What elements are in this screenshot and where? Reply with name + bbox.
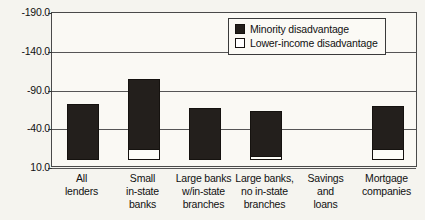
x-axis-category-label: Mortgagecompanies <box>356 172 417 198</box>
legend-item: Lower-income disadvantage <box>235 36 378 50</box>
y-axis-tick-label: -190.0 <box>4 6 50 18</box>
x-axis-category-label: Large banks,no in-statebranches <box>234 172 295 211</box>
y-axis-tick-label: -90.0 <box>4 84 50 96</box>
chart-legend: Minority disadvantageLower-income disadv… <box>228 18 386 55</box>
legend-item-label: Lower-income disadvantage <box>250 37 378 49</box>
filled-square-icon <box>235 24 245 34</box>
x-axis: AlllendersSmallin-statebanksLarge banksw… <box>51 172 417 220</box>
x-axis-category-line: in-state <box>112 185 173 198</box>
bar-group <box>189 13 221 166</box>
bar-minority-disadvantage <box>250 111 282 160</box>
x-axis-category-line: branches <box>173 198 234 211</box>
bar-minority-disadvantage <box>189 108 221 161</box>
legend-item-label: Minority disadvantage <box>250 23 349 35</box>
x-axis-category-line: Large banks <box>173 172 234 185</box>
y-axis-tick-label: -140.0 <box>4 45 50 57</box>
y-axis: -190.0-140.0-90.0-40.010.0 <box>0 0 50 220</box>
x-axis-category-line: no in-state <box>234 185 295 198</box>
x-axis-category-line: Small <box>112 172 173 185</box>
bar-lower-income-disadvantage <box>372 149 404 161</box>
x-axis-category-line: w/in-state <box>173 185 234 198</box>
x-axis-category-label: Savingsandloans <box>295 172 356 211</box>
gridline <box>52 168 416 169</box>
bar-group <box>128 13 160 166</box>
legend-item: Minority disadvantage <box>235 22 378 36</box>
bar-minority-disadvantage <box>67 104 99 160</box>
bar-lower-income-disadvantage <box>128 149 160 161</box>
bar-group <box>67 13 99 166</box>
x-axis-category-label: Smallin-statebanks <box>112 172 173 211</box>
x-axis-category-line: Savings <box>295 172 356 185</box>
x-axis-category-line: and <box>295 185 356 198</box>
x-axis-category-label: Large banksw/in-statebranches <box>173 172 234 211</box>
x-axis-category-label: Alllenders <box>51 172 112 198</box>
hollow-square-icon <box>235 38 245 48</box>
x-axis-category-line: banks <box>112 198 173 211</box>
x-axis-category-line: All <box>51 172 112 185</box>
x-axis-category-line: loans <box>295 198 356 211</box>
x-axis-category-line: Mortgage <box>356 172 417 185</box>
y-axis-tick-label: 10.0 <box>4 161 50 173</box>
bar-lower-income-disadvantage <box>250 156 282 160</box>
y-axis-tick <box>48 168 52 169</box>
y-axis-tick-label: -40.0 <box>4 122 50 134</box>
bar-chart: -190.0-140.0-90.0-40.010.0 Minority disa… <box>0 0 425 220</box>
x-axis-category-line: Large banks, <box>234 172 295 185</box>
x-axis-category-line: lenders <box>51 185 112 198</box>
x-axis-category-line: companies <box>356 185 417 198</box>
x-axis-category-line: branches <box>234 198 295 211</box>
